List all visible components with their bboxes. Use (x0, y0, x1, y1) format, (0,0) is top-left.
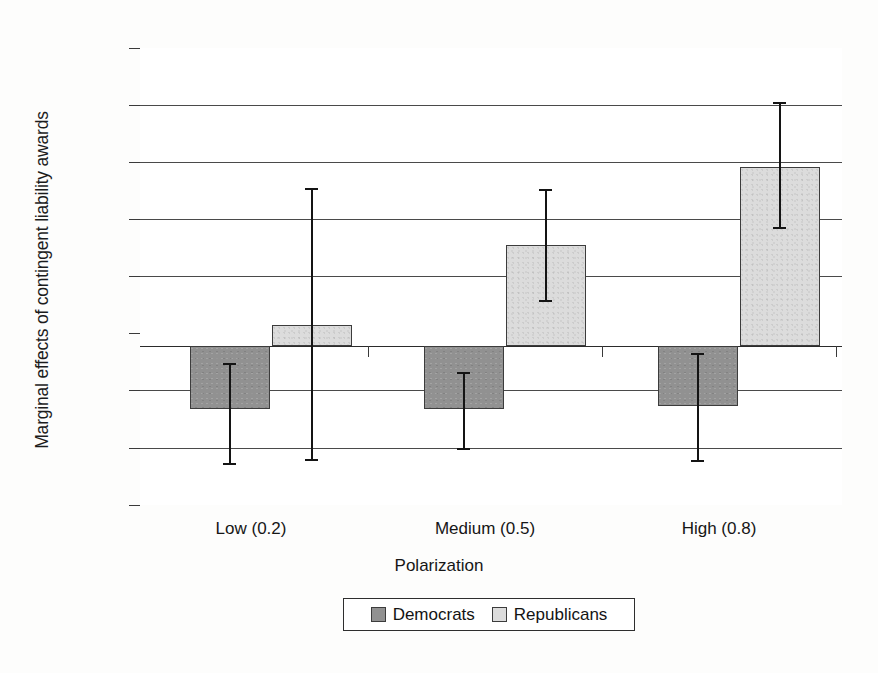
y-tick-mark-8 (129, 505, 140, 506)
y-tick-mark-1 (129, 105, 140, 106)
error-cap-upper-democrats-medium (457, 372, 470, 374)
x-tick-label-medium: Medium (0.5) (365, 519, 605, 539)
error-bar-republicans-high (779, 102, 781, 227)
error-bar-republicans-medium (545, 189, 547, 300)
error-cap-upper-democrats-high (691, 353, 704, 355)
legend-entry-republicans: Republicans (492, 605, 608, 625)
y-axis-title: Marginal effects of contingent liability… (22, 20, 62, 540)
x-tick-mark-2 (602, 346, 603, 357)
chart-legend: Democrats Republicans (343, 598, 635, 631)
y-tick-mark-5 (129, 333, 140, 334)
gridline-0.01 (140, 219, 842, 220)
error-cap-lower-republicans-high (773, 227, 786, 229)
gridline-0.015 (140, 162, 842, 163)
plot-area (140, 48, 842, 505)
error-cap-upper-republicans-medium (539, 189, 552, 191)
y-tick-mark-6 (129, 390, 140, 391)
x-tick-label-high: High (0.8) (599, 519, 839, 539)
error-bar-republicans-low (311, 188, 313, 459)
gridline-0.005 (140, 276, 842, 277)
legend-entry-democrats: Democrats (371, 605, 475, 625)
error-cap-upper-republicans-high (773, 102, 786, 104)
error-cap-lower-republicans-low (305, 459, 318, 461)
error-cap-lower-democrats-high (691, 460, 704, 462)
y-tick-mark-7 (129, 448, 140, 449)
error-bar-democrats-high (697, 353, 699, 460)
legend-swatch-republicans-icon (492, 607, 507, 622)
legend-swatch-democrats-icon (371, 607, 386, 622)
gridline-neg0.01 (140, 448, 842, 449)
error-bar-democrats-medium (463, 372, 465, 448)
error-bar-democrats-low (229, 363, 231, 463)
y-tick-mark-3 (129, 219, 140, 220)
error-cap-lower-democrats-low (223, 463, 236, 465)
y-tick-mark-2 (129, 162, 140, 163)
legend-label-democrats: Democrats (393, 605, 475, 625)
error-cap-lower-republicans-medium (539, 300, 552, 302)
x-tick-mark-1 (368, 346, 369, 357)
y-tick-mark-4 (129, 276, 140, 277)
x-axis-title: Polarization (0, 556, 878, 576)
x-tick-label-low: Low (0.2) (131, 519, 371, 539)
error-cap-lower-democrats-medium (457, 448, 470, 450)
y-tick-mark-0 (129, 48, 140, 49)
error-cap-upper-republicans-low (305, 188, 318, 190)
error-cap-upper-democrats-low (223, 363, 236, 365)
gridline-0.02 (140, 105, 842, 106)
x-tick-mark-3 (836, 346, 837, 357)
chart-figure: Marginal effects of contingent liability… (0, 0, 878, 673)
legend-label-republicans: Republicans (514, 605, 608, 625)
